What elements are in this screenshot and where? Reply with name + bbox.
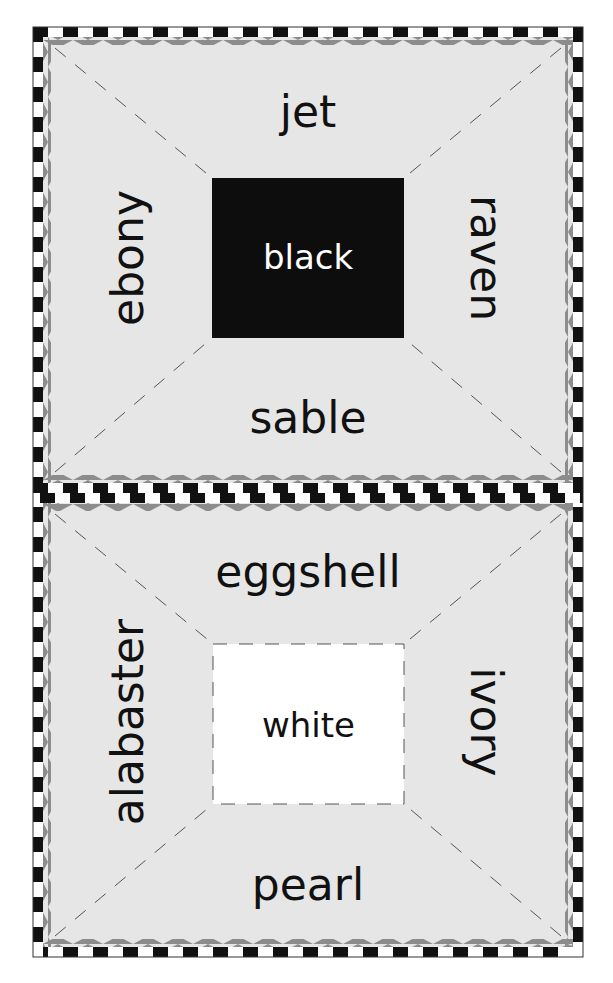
- top-panel-right-word: raven: [464, 195, 508, 321]
- top-panel-top-word: jet: [280, 90, 337, 134]
- bottom-panel-top-word: eggshell: [215, 550, 400, 594]
- bottom-panel-left-word: alabaster: [106, 619, 150, 825]
- top-panel-bottom-word: sable: [249, 396, 366, 440]
- black-center-label: black: [212, 240, 404, 274]
- top-panel-left-word: ebony: [106, 190, 150, 326]
- worksheet-artwork: [0, 0, 613, 983]
- bottom-panel-bottom-word: pearl: [252, 863, 364, 907]
- foldable-worksheet: jet ebony raven sable black eggshell ala…: [0, 0, 613, 983]
- bottom-panel-right-word: ivory: [464, 667, 508, 776]
- white-center-label: white: [213, 708, 404, 742]
